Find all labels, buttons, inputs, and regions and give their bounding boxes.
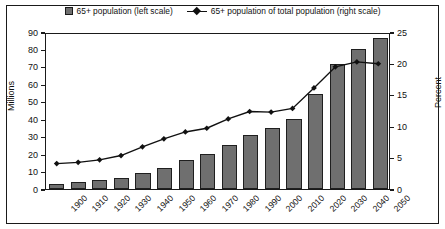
legend-square-swatch-icon <box>65 7 73 15</box>
line-marker-1950: 1950: 8.1% <box>161 136 167 142</box>
x-axis-label-1980: 1980 <box>241 193 262 214</box>
tick-label: 0 <box>397 186 402 195</box>
x-axis-labels: 1900191019201930194019501960197019801990… <box>45 190 390 228</box>
x-axis-label-2020: 2020 <box>327 193 348 214</box>
tick-label: 10 <box>28 168 38 177</box>
line-series-layer: 1900: 4.1%1910: 4.3%1920: 4.7%1930: 5.4%… <box>46 34 389 189</box>
tick-mark <box>41 67 45 68</box>
tick-label: 20 <box>397 60 407 69</box>
tick-label: 20 <box>28 151 38 160</box>
x-axis-label-2030: 2030 <box>349 193 370 214</box>
x-axis-label-1920: 1920 <box>112 193 133 214</box>
x-axis-label-1900: 1900 <box>68 193 89 214</box>
x-axis-label-2000: 2000 <box>284 193 305 214</box>
tick-mark <box>390 95 394 96</box>
tick-mark <box>390 127 394 128</box>
tick-label: 40 <box>28 116 38 125</box>
legend-label-line-series: 65+ population of total population (righ… <box>211 7 381 15</box>
tick-mark <box>390 189 394 190</box>
line-marker-2050: 2050: 20.2% <box>375 61 381 67</box>
tick-mark <box>41 50 45 51</box>
line-marker-1940: 1940: 6.8% <box>140 144 146 150</box>
line-marker-1970: 1970: 9.8% <box>204 125 210 131</box>
legend-line-diamond-icon <box>187 7 207 15</box>
line-marker-1980: 1980: 11.3% <box>225 116 231 122</box>
legend-label-bar-series: 65+ population (left scale) <box>77 7 173 15</box>
tick-label: 25 <box>397 29 407 38</box>
x-axis-label-1990: 1990 <box>262 193 283 214</box>
tick-label: 60 <box>28 81 38 90</box>
tick-mark <box>41 120 45 121</box>
x-axis-label-2040: 2040 <box>370 193 391 214</box>
tick-mark <box>41 172 45 173</box>
line-marker-2040: 2040: 20.5% <box>354 59 360 65</box>
tick-label: 80 <box>28 46 38 55</box>
x-axis-label-1910: 1910 <box>90 193 111 214</box>
tick-label: 70 <box>28 63 38 72</box>
legend-entry-line-series: 65+ population of total population (righ… <box>187 7 381 15</box>
line-marker-1910: 1910: 4.3% <box>75 159 81 165</box>
tick-mark <box>41 102 45 103</box>
x-axis-label-1950: 1950 <box>176 193 197 214</box>
legend-entry-bar-series: 65+ population (left scale) <box>65 7 173 15</box>
line-path <box>57 62 379 164</box>
tick-label: 5 <box>397 154 402 163</box>
tick-label: 15 <box>397 91 407 100</box>
line-marker-2000: 2000: 12.4% <box>268 109 274 115</box>
line-marker-1930: 1930: 5.4% <box>118 153 124 159</box>
line-marker-1960: 1960: 9.2% <box>182 129 188 135</box>
chart-legend: 65+ population (left scale) 65+ populati… <box>0 7 445 15</box>
tick-label: 10 <box>397 123 407 132</box>
line-marker-1990: 1990: 12.5% <box>247 109 253 115</box>
tick-label: 30 <box>28 133 38 142</box>
x-axis-label-2010: 2010 <box>306 193 327 214</box>
x-axis-label-1960: 1960 <box>198 193 219 214</box>
line-marker-1900: 1900: 4.1% <box>54 161 60 167</box>
plot-area: 1900: 4.1%1910: 4.3%1920: 4.7%1930: 5.4%… <box>45 33 390 190</box>
y-axis-left-title: Millions <box>6 81 16 111</box>
y-axis-right-title: Percent <box>433 77 443 108</box>
line-series-svg: 1900: 4.1%1910: 4.3%1920: 4.7%1930: 5.4%… <box>46 34 389 189</box>
tick-mark <box>390 64 394 65</box>
tick-mark <box>41 137 45 138</box>
x-axis-label-1940: 1940 <box>155 193 176 214</box>
tick-mark <box>41 155 45 156</box>
tick-label: 50 <box>28 98 38 107</box>
chart-figure: 65+ population (left scale) 65+ populati… <box>0 0 445 229</box>
x-axis-label-1970: 1970 <box>219 193 240 214</box>
tick-mark <box>390 32 394 33</box>
x-axis-label-1930: 1930 <box>133 193 154 214</box>
tick-label: 0 <box>33 186 38 195</box>
tick-mark <box>390 158 394 159</box>
tick-mark <box>41 32 45 33</box>
line-marker-1920: 1920: 4.7% <box>97 157 103 163</box>
tick-mark <box>41 85 45 86</box>
tick-label: 90 <box>28 29 38 38</box>
